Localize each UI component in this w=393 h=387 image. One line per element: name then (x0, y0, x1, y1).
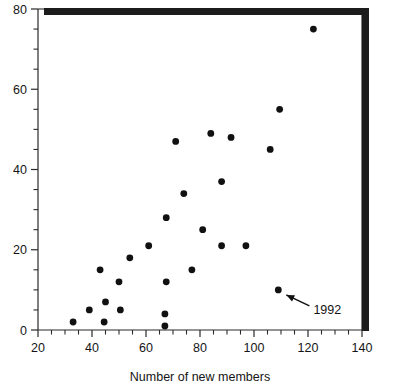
data-point (101, 319, 108, 326)
y-tick-label: 0 (20, 324, 27, 338)
scatter-plot-figure: 020406080 20406080100120140 1992 Number … (0, 0, 393, 387)
x-axis-title: Number of new members (130, 370, 270, 384)
y-axis-ticks: 020406080 (13, 3, 38, 338)
y-tick-label: 40 (13, 163, 27, 177)
data-point (310, 26, 317, 33)
y-tick-label: 80 (13, 3, 27, 17)
data-point (243, 242, 250, 249)
data-point (162, 323, 169, 330)
x-tick-label: 140 (352, 341, 373, 355)
data-point (97, 266, 104, 273)
y-tick-label: 60 (13, 83, 27, 97)
x-tick-label: 100 (244, 341, 265, 355)
data-point (275, 286, 282, 293)
x-tick-label: 40 (85, 341, 99, 355)
x-tick-label: 120 (298, 341, 319, 355)
data-point (126, 254, 133, 261)
data-point (172, 138, 179, 145)
data-point (189, 266, 196, 273)
data-point (163, 278, 170, 285)
data-point (145, 242, 152, 249)
annotation-label-1992: 1992 (313, 303, 341, 317)
data-point (116, 278, 123, 285)
data-point (218, 242, 225, 249)
data-point (199, 226, 206, 233)
data-point (228, 134, 235, 141)
data-point (162, 311, 169, 318)
plot-frame (38, 9, 362, 330)
frame-drop-shadow (44, 8, 369, 331)
data-point (207, 130, 214, 137)
y-tick-label: 20 (13, 243, 27, 257)
data-points-layer (70, 26, 317, 330)
x-tick-label: 60 (139, 341, 153, 355)
annotation-layer: 1992 (286, 295, 341, 317)
data-point (86, 307, 93, 314)
data-point (102, 299, 109, 306)
plot-canvas: 020406080 20406080100120140 1992 Number … (0, 0, 393, 387)
data-point (117, 307, 124, 314)
data-point (180, 190, 187, 197)
data-point (218, 178, 225, 185)
x-axis-ticks: 20406080100120140 (31, 330, 372, 355)
data-point (70, 319, 77, 326)
data-point (267, 146, 274, 153)
x-tick-label: 80 (193, 341, 207, 355)
data-point (163, 214, 170, 221)
x-tick-label: 20 (31, 341, 45, 355)
data-point (276, 106, 283, 113)
